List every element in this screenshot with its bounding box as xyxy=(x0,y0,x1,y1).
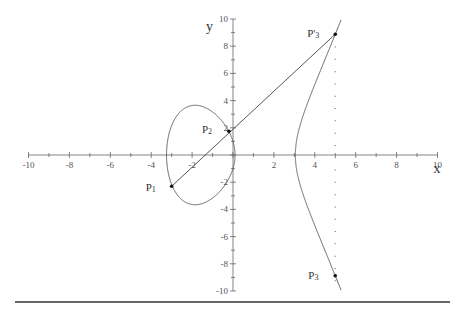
y-tick-label: 10 xyxy=(219,14,229,24)
point-label-P3: P3 xyxy=(308,269,318,282)
points: P1P2P'3P3 xyxy=(146,27,337,282)
point-label-P1: P1 xyxy=(146,181,156,194)
y-tick-label: 6 xyxy=(224,68,229,78)
x-tick-label: -8 xyxy=(66,160,74,170)
y-tick-label: 8 xyxy=(224,41,229,51)
y-tick-label: -10 xyxy=(216,286,228,296)
y-tick-label: -4 xyxy=(221,204,229,214)
y-tick-label: 4 xyxy=(224,96,229,106)
y-tick-label: -6 xyxy=(221,232,229,242)
axes: -10-8-6-4-2246810108642-2-4-6-8-10xy xyxy=(23,14,443,296)
point-label-P2: P2 xyxy=(202,123,212,136)
x-axis-label: x xyxy=(434,161,441,176)
secant-line xyxy=(172,34,336,186)
x-tick-label: -4 xyxy=(147,160,155,170)
x-tick-label: -10 xyxy=(23,160,35,170)
x-tick-label: 8 xyxy=(394,160,399,170)
point-P3 xyxy=(333,274,337,278)
x-tick-label: 6 xyxy=(353,160,358,170)
x-tick-label: 4 xyxy=(313,160,318,170)
elliptic-curve-diagram: -10-8-6-4-2246810108642-2-4-6-8-10xy P1P… xyxy=(0,0,463,315)
y-axis-label: y xyxy=(206,19,213,34)
y-tick-label: -8 xyxy=(221,259,229,269)
x-tick-label: 2 xyxy=(272,160,277,170)
construction-lines xyxy=(172,34,336,285)
point-P2 xyxy=(227,129,231,133)
point-label-P3prime: P'3 xyxy=(307,27,319,40)
x-tick-label: -6 xyxy=(107,160,115,170)
point-P1 xyxy=(170,184,174,188)
point-P3prime xyxy=(333,32,337,36)
